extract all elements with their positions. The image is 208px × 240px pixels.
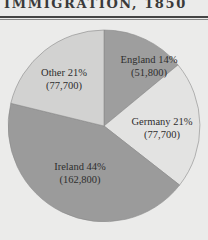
label-england-name: England 14% [121, 53, 178, 66]
label-other-name: Other 21% [41, 66, 87, 79]
label-ireland: Ireland 44% (162,800) [54, 160, 106, 186]
label-germany: Germany 21% (77,700) [132, 115, 193, 141]
label-ireland-value: (162,800) [54, 173, 106, 186]
label-other-value: (77,700) [41, 79, 87, 92]
label-england-value: (51,800) [121, 66, 178, 79]
label-ireland-name: Ireland 44% [54, 160, 106, 173]
label-england: England 14% (51,800) [121, 53, 178, 79]
label-germany-value: (77,700) [132, 128, 193, 141]
label-germany-name: Germany 21% [132, 115, 193, 128]
label-other: Other 21% (77,700) [41, 66, 87, 92]
